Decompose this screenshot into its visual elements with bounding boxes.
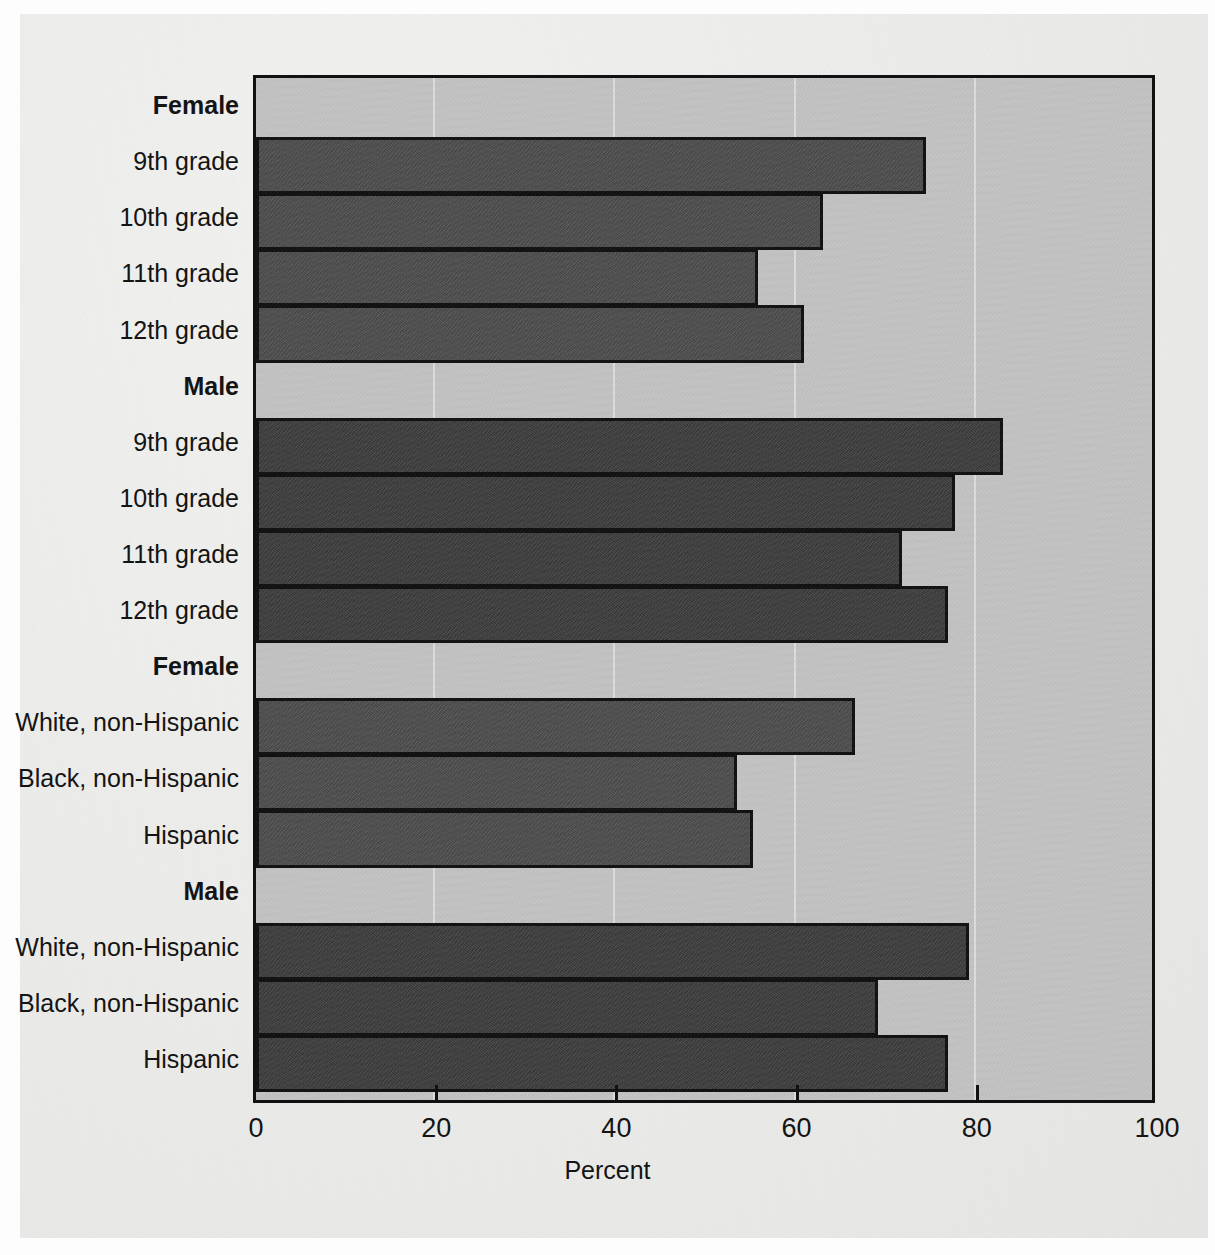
page-margin-right [1208,0,1215,1255]
bar-male-9th-grade [256,418,1003,475]
y-category-label-10th-grade: 10th grade [0,205,239,230]
x-tick-label-20: 20 [421,1115,451,1142]
x-tick-label-100: 100 [1134,1115,1179,1142]
y-category-label-11th-grade: 11th grade [0,542,239,567]
page-margin-top [0,0,1215,14]
bar-female-11th-grade [256,249,758,306]
bar-female-white-non-hispanic [256,698,855,755]
bar-female-black-non-hispanic [256,754,737,811]
bar-female-hispanic [256,810,753,867]
bar-male-11th-grade [256,530,902,587]
y-category-label-11th-grade: 11th grade [0,261,239,286]
x-tick-label-80: 80 [962,1115,992,1142]
y-category-label-9th-grade: 9th grade [0,149,239,174]
x-tick-40 [615,1085,618,1100]
x-tick-label-0: 0 [248,1115,263,1142]
bar-male-black-non-hispanic [256,979,878,1036]
y-category-label-hispanic: Hispanic [0,1047,239,1072]
figure-canvas: Female9th grade10th grade11th grade12th … [0,0,1215,1255]
bar-female-12th-grade [256,305,804,362]
bar-male-12th-grade [256,586,948,643]
bar-male-10th-grade [256,474,955,531]
gridline-80 [974,78,976,1100]
bar-male-white-non-hispanic [256,923,969,980]
x-tick-20 [435,1085,438,1100]
y-group-label-female: Female [0,93,239,118]
x-axis-title: Percent [0,1156,1215,1185]
x-tick-80 [976,1085,979,1100]
y-category-label-hispanic: Hispanic [0,823,239,848]
y-category-label-12th-grade: 12th grade [0,318,239,343]
y-group-label-male: Male [0,374,239,399]
x-tick-label-60: 60 [782,1115,812,1142]
y-category-label-white-non-hispanic: White, non-Hispanic [0,935,239,960]
y-category-label-white-non-hispanic: White, non-Hispanic [0,710,239,735]
y-category-label-12th-grade: 12th grade [0,598,239,623]
x-tick-60 [796,1085,799,1100]
page-margin-bottom [0,1238,1215,1255]
bar-female-10th-grade [256,193,823,250]
plot-area [253,75,1155,1103]
bar-male-hispanic [256,1035,948,1092]
y-group-label-female: Female [0,654,239,679]
y-category-label-9th-grade: 9th grade [0,430,239,455]
y-group-label-male: Male [0,879,239,904]
bar-female-9th-grade [256,137,926,194]
y-category-label-black-non-hispanic: Black, non-Hispanic [0,991,239,1016]
y-category-label-10th-grade: 10th grade [0,486,239,511]
x-tick-label-40: 40 [601,1115,631,1142]
y-category-label-black-non-hispanic: Black, non-Hispanic [0,766,239,791]
